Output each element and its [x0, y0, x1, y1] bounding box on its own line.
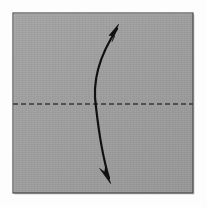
origami-diagram-svg: [0, 0, 207, 207]
origami-diagram-canvas: Origami fold step Square sheet of paper …: [0, 0, 207, 207]
paper-square: [13, 13, 193, 193]
